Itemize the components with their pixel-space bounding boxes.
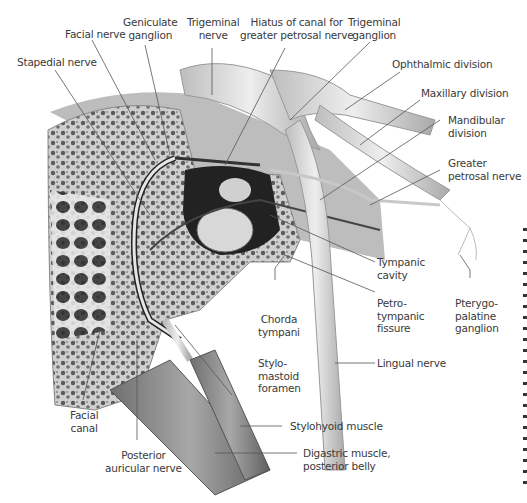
adjacent-page-text-edge [521, 228, 527, 478]
label-posterior-auricular-nerve: Posterior auricular nerve [105, 449, 182, 474]
label-greater-petrosal-nerve: Greater petrosal nerve [448, 157, 521, 182]
label-petrotympanic-fissure: Petro- tympanic fissure [377, 297, 424, 335]
label-chorda-tympani: Chorda tympani [258, 313, 300, 338]
anatomy-figure: Facial nerve Geniculate ganglion Trigemi… [0, 0, 527, 503]
label-tympanic-cavity: Tympanic cavity [377, 256, 425, 281]
styloid-process [165, 320, 190, 360]
label-hiatus-greater-petrosal: Hiatus of canal for greater petrosal ner… [240, 16, 354, 41]
label-lingual-nerve: Lingual nerve [377, 357, 446, 370]
label-facial-canal: Facial canal [70, 409, 98, 434]
label-pterygopalatine-ganglion: Pterygo- palatine ganglion [455, 297, 499, 335]
ossicles [219, 178, 251, 202]
pterygopalatine-branches [440, 200, 476, 260]
label-trigeminal-nerve: Trigeminal nerve [187, 16, 239, 41]
label-facial-nerve: Facial nerve [65, 28, 126, 41]
label-geniculate-ganglion: Geniculate ganglion [123, 16, 178, 41]
label-stylohyoid-muscle: Stylohyoid muscle [290, 420, 383, 433]
label-ophthalmic-division: Ophthalmic division [392, 58, 492, 71]
label-maxillary-division: Maxillary division [421, 87, 508, 100]
label-stapedial-nerve: Stapedial nerve [17, 56, 97, 69]
label-trigeminal-ganglion: Trigeminal ganglion [348, 16, 400, 41]
label-mandibular-division: Mandibular division [448, 114, 505, 139]
mastoid-air-cells [50, 190, 110, 340]
label-digastric-muscle: Digastric muscle, posterior belly [303, 447, 390, 472]
label-stylomastoid-foramen: Stylo- mastoid foramen [258, 357, 301, 395]
